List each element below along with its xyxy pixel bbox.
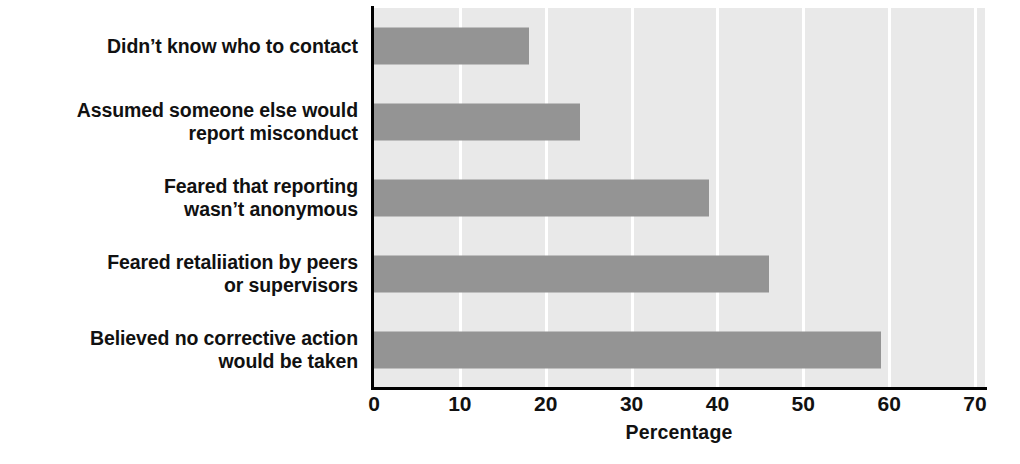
category-axis-labels: Didn’t know who to contactAssumed someon… xyxy=(0,8,366,388)
gridline xyxy=(888,8,891,388)
bar xyxy=(373,256,769,293)
x-tick-label: 10 xyxy=(448,392,471,416)
category-label: Assumed someone else would report miscon… xyxy=(0,99,366,145)
bar xyxy=(373,180,709,217)
y-axis-line xyxy=(371,6,374,390)
category-label: Didn’t know who to contact xyxy=(0,35,366,58)
category-label: Believed no corrective action would be t… xyxy=(0,327,366,373)
x-tick-label: 20 xyxy=(534,392,557,416)
bar xyxy=(373,104,580,141)
x-tick-label: 70 xyxy=(963,392,986,416)
bar xyxy=(373,332,881,369)
x-tick-label: 60 xyxy=(877,392,900,416)
category-label: Feared retaliiation by peers or supervis… xyxy=(0,251,366,297)
x-axis-title: Percentage xyxy=(373,421,985,444)
x-tick-label: 40 xyxy=(706,392,729,416)
x-axis-line xyxy=(371,387,987,390)
x-tick-label: 30 xyxy=(620,392,643,416)
bar xyxy=(373,28,529,65)
category-label: Feared that reporting wasn’t anonymous xyxy=(0,175,366,221)
plot-area xyxy=(373,8,985,388)
x-tick-label: 50 xyxy=(792,392,815,416)
gridline xyxy=(974,8,977,388)
bar-chart: Didn’t know who to contactAssumed someon… xyxy=(0,0,1020,464)
x-tick-label: 0 xyxy=(368,392,380,416)
